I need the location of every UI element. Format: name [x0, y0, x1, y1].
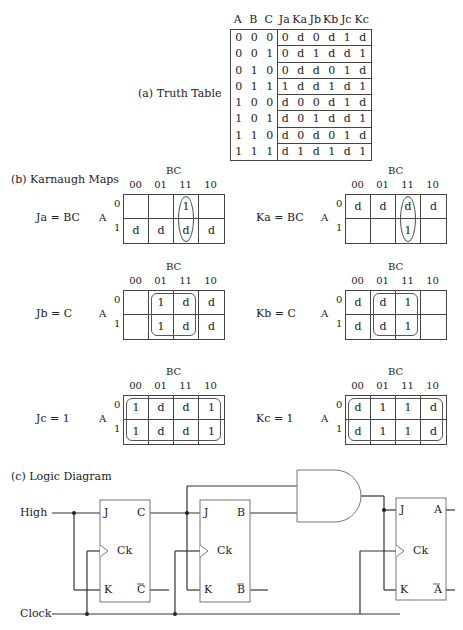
ff1-j-label: J — [104, 506, 108, 519]
junction-dot — [185, 511, 189, 515]
ff3-k-label: K — [400, 583, 408, 596]
ff1-ck-label: Ck — [117, 544, 132, 557]
high-input-label: High — [20, 506, 47, 519]
ff1-q-label: C — [137, 506, 145, 519]
ff1-k-label: K — [104, 583, 112, 596]
ff2-j-label: J — [204, 506, 208, 519]
ff2-q-label: B — [237, 506, 245, 519]
ff2-ck-label: Ck — [217, 544, 232, 557]
junction-dot — [85, 612, 89, 616]
junction-dot — [72, 511, 76, 515]
logic-diagram — [0, 0, 463, 630]
junction-dot — [173, 612, 177, 616]
ff2-k-label: K — [204, 583, 212, 596]
clock-input-label: Clock — [20, 607, 51, 620]
ff3-ck-label: Ck — [413, 544, 428, 557]
ff3-q-label: A — [434, 503, 442, 516]
ff3-qbar-label: A — [434, 583, 442, 596]
ff1-qbar-label: C — [137, 583, 145, 596]
ff3-j-label: J — [400, 503, 404, 516]
ff2-qbar-label: B — [237, 583, 245, 596]
junction-dot — [382, 508, 386, 512]
and-gate-icon — [297, 470, 361, 522]
